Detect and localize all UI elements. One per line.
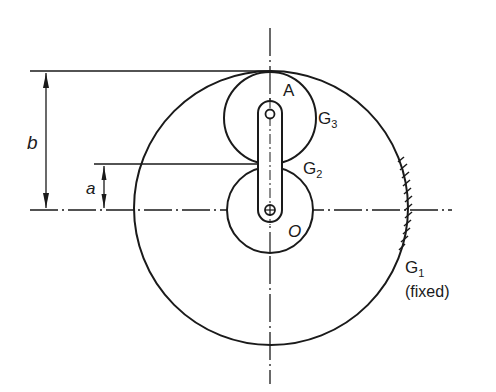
label-g1: G1 bbox=[405, 258, 424, 279]
label-a-point: A bbox=[283, 81, 295, 100]
b-arrow-top bbox=[43, 73, 49, 88]
label-o-point: O bbox=[288, 222, 301, 241]
a-arrow-bottom bbox=[102, 194, 107, 208]
b-arrow-bottom bbox=[43, 193, 49, 208]
label-dimension-a: a bbox=[86, 179, 95, 198]
label-dimension-b: b bbox=[27, 132, 38, 153]
epicyclic-gear-diagram: A O G3 G2 G1 (fixed) b a bbox=[0, 0, 496, 392]
a-arrow-top bbox=[102, 166, 107, 180]
label-g2: G2 bbox=[303, 159, 322, 180]
label-fixed: (fixed) bbox=[405, 283, 449, 300]
pivot-a bbox=[266, 110, 275, 119]
label-g3: G3 bbox=[318, 109, 337, 130]
